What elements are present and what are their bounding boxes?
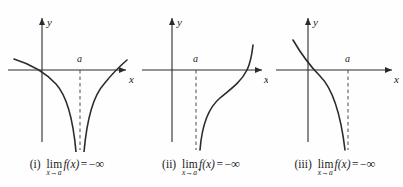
y-axis-label: y xyxy=(176,16,182,28)
equals-sign: = xyxy=(216,158,223,170)
sub-arrow: → xyxy=(50,168,58,177)
panel-ii-limit-expression: lim x→a+ xyxy=(182,159,198,171)
infinity-symbol: ∞ xyxy=(367,157,376,171)
asymptote-label: a xyxy=(193,53,198,64)
infinity-symbol: ∞ xyxy=(95,157,104,171)
sub-point: a xyxy=(58,168,62,177)
y-axis-label: y xyxy=(46,16,52,28)
infinity-symbol: ∞ xyxy=(231,157,240,171)
panel-ii-plot: x y a xyxy=(134,0,268,152)
panel-ii: x y a (ii) lim x→a+ f(x)=−∞ xyxy=(134,0,268,187)
x-axis-label: x xyxy=(393,73,399,85)
curve-left-branch xyxy=(14,59,76,152)
limit-diagram-figure: x y a (i) lim x→a f(x)=−∞ xyxy=(0,0,403,187)
y-axis xyxy=(39,18,45,142)
curve-left-branch xyxy=(293,40,345,150)
lim-subscript: x→a+ xyxy=(182,169,201,177)
y-axis xyxy=(169,18,175,142)
equals-sign: = xyxy=(352,158,359,170)
panel-iii-index: (iii) xyxy=(295,158,312,170)
panel-ii-caption: (ii) lim x→a+ f(x)=−∞ xyxy=(134,152,268,187)
equals-sign: = xyxy=(81,158,88,170)
sub-sign: − xyxy=(333,167,337,173)
panel-iii: x y a (iii) lim x→a− f(x)=−∞ xyxy=(268,0,402,187)
y-axis xyxy=(305,18,311,142)
lim-subscript: x→a− xyxy=(318,169,337,177)
panel-iii-plot: x y a xyxy=(268,0,402,152)
x-axis xyxy=(8,67,126,73)
asymptote-label: a xyxy=(77,53,82,64)
panel-iii-limit-expression: lim x→a− xyxy=(318,159,334,171)
lim-subscript: x→a xyxy=(46,169,61,177)
panel-i-caption: (i) lim x→a f(x)=−∞ xyxy=(0,152,134,187)
curve-right-branch xyxy=(200,45,253,150)
panel-i: x y a (i) lim x→a f(x)=−∞ xyxy=(0,0,134,187)
panel-i-plot: x y a xyxy=(0,0,134,152)
curve-right-branch xyxy=(84,60,127,152)
x-axis xyxy=(142,67,262,73)
panel-i-limit-expression: lim x→a xyxy=(46,159,62,171)
panel-ii-index: (ii) xyxy=(162,158,176,170)
panel-i-index: (i) xyxy=(30,158,41,170)
function-expression: f(x) xyxy=(63,158,79,170)
x-axis xyxy=(276,67,392,73)
sub-sign: + xyxy=(197,167,201,173)
panel-iii-caption: (iii) lim x→a− f(x)=−∞ xyxy=(268,152,402,187)
y-axis-label: y xyxy=(312,16,318,28)
sub-arrow: → xyxy=(321,168,329,177)
asymptote-label: a xyxy=(345,53,350,64)
